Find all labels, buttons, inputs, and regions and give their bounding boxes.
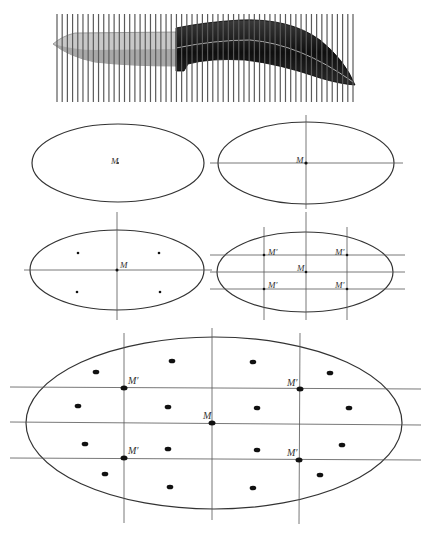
point-M xyxy=(304,161,307,164)
grid-line-h-top xyxy=(10,387,421,389)
symmetric-point xyxy=(317,473,324,478)
symmetric-point xyxy=(169,359,176,364)
point-M xyxy=(209,421,216,426)
symmetric-point xyxy=(75,404,82,409)
label-M-prime: M′ xyxy=(267,247,278,257)
image-point xyxy=(346,254,349,257)
image-point xyxy=(296,458,303,463)
image-point xyxy=(263,254,266,257)
grid-line-v-right xyxy=(299,333,300,524)
symmetric-point xyxy=(250,486,257,491)
image-point xyxy=(121,386,128,391)
symmetric-point xyxy=(165,447,172,452)
point-M xyxy=(305,271,308,274)
panel-5: M M′ M′ M′ M′ xyxy=(10,328,421,524)
label-M-prime: M′ xyxy=(334,280,345,290)
symmetric-point xyxy=(167,485,174,490)
grid-line-h-bottom xyxy=(10,458,421,460)
symmetric-point xyxy=(159,291,162,294)
symmetric-point xyxy=(339,443,346,448)
label-M-prime: M′ xyxy=(286,377,298,388)
label-M-prime: M′ xyxy=(286,447,298,458)
point-M xyxy=(116,269,119,272)
label-M: M xyxy=(110,156,119,166)
panel-1: M xyxy=(32,124,204,202)
label-M: M xyxy=(296,263,305,273)
image-point xyxy=(121,456,128,461)
symmetric-point xyxy=(254,448,261,453)
label-M-prime: M′ xyxy=(127,445,139,456)
label-M: M xyxy=(119,260,128,270)
symmetric-point xyxy=(82,442,89,447)
point-M xyxy=(117,162,119,164)
label-M-prime: M′ xyxy=(334,247,345,257)
symmetric-point xyxy=(102,472,109,477)
symmetric-point xyxy=(346,406,353,411)
label-M-prime: M′ xyxy=(127,375,139,386)
label-M: M xyxy=(202,410,212,421)
knife-figure xyxy=(53,14,355,102)
panel-3: M xyxy=(24,212,212,320)
panel-2: M xyxy=(210,115,403,209)
grid-line-h-mid xyxy=(10,422,421,425)
symmetric-point xyxy=(93,370,100,375)
image-point xyxy=(297,387,304,392)
symmetry-diagram: M M M M M′ M′ M′ xyxy=(0,0,430,543)
symmetric-point xyxy=(327,371,334,376)
label-M-prime: M′ xyxy=(267,280,278,290)
panel-4: M M′ M′ M′ M′ xyxy=(210,212,405,320)
symmetric-point xyxy=(250,360,257,365)
symmetric-point xyxy=(77,252,80,255)
image-point xyxy=(263,288,266,291)
symmetric-point xyxy=(165,405,172,410)
symmetric-point xyxy=(254,406,261,411)
image-point xyxy=(346,288,349,291)
symmetric-point xyxy=(76,291,79,294)
symmetric-point xyxy=(158,252,161,255)
label-M: M xyxy=(295,155,304,165)
